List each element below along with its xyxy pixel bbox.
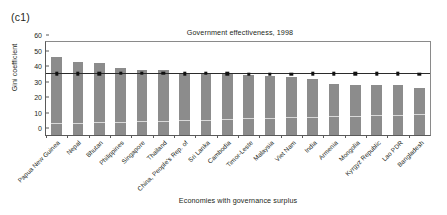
bar-base-hatch (329, 116, 340, 117)
x-tick-label: Armenia (324, 138, 345, 198)
bar (307, 79, 318, 135)
bar (243, 75, 254, 135)
bar (371, 85, 382, 135)
bar (137, 70, 148, 135)
x-tick-label: Bhutan (88, 138, 109, 198)
bar-slot (110, 42, 131, 135)
x-tick-label: Lao PDR (388, 138, 409, 198)
bar (350, 85, 361, 135)
y-axis-title: Gini coefficient (11, 28, 18, 108)
x-tick-label-text: Bhutan (84, 139, 103, 158)
y-tick-label: 50 (34, 47, 46, 54)
x-axis-tick-labels: Papua New GuineaNepalBhutanPhilippinesSi… (45, 138, 431, 198)
bar-slot (131, 42, 152, 135)
x-tick-label-text: India (303, 139, 318, 154)
bar-slot (302, 42, 323, 135)
bar-base-hatch (350, 116, 361, 117)
chart-figure: Government effectiveness, 1998 Gini coef… (0, 0, 447, 215)
bar-slot (217, 42, 238, 135)
y-tick-label: 60 (34, 32, 46, 39)
bar-slot (366, 42, 387, 135)
bar-base-hatch (414, 114, 425, 115)
bar (393, 85, 404, 135)
bar-slot (238, 42, 259, 135)
y-tick-label: 40 (34, 63, 46, 70)
bar (414, 88, 425, 135)
x-tick-label: Bangladesh (409, 138, 430, 198)
y-tick-label: 20 (34, 94, 46, 101)
bar-base-hatch (115, 122, 126, 123)
x-axis-title: Economies with governance surplus (45, 196, 431, 205)
bar-slot (387, 42, 408, 135)
x-tick-label: Timor-Leste (238, 138, 259, 198)
bar-series (46, 42, 430, 135)
bar-slot (345, 42, 366, 135)
bar-slot (46, 42, 67, 135)
bar (265, 76, 276, 135)
bar (158, 70, 169, 135)
bar (222, 74, 233, 135)
bar-base-hatch (286, 117, 297, 118)
bar-slot (259, 42, 280, 135)
x-tick-label: China, People's Rep. of (174, 138, 195, 198)
bar-slot (89, 42, 110, 135)
y-tick-label: 30 (34, 78, 46, 85)
x-tick-label: Nepal (66, 138, 87, 198)
bar-base-hatch (51, 123, 62, 124)
bar-base-hatch (393, 115, 404, 116)
bar-base-hatch (243, 118, 254, 119)
y-tick-label: 0 (38, 125, 46, 132)
reference-line (46, 73, 430, 74)
x-tick-label: India (302, 138, 323, 198)
bar (115, 68, 126, 135)
bar-base-hatch (179, 120, 190, 121)
y-tick-label: 10 (34, 109, 46, 116)
chart-title: Government effectiveness, 1998 (45, 28, 435, 37)
bar (51, 57, 62, 135)
y-tick-mark (46, 35, 49, 36)
bar-base-hatch (307, 117, 318, 118)
bar-slot (409, 42, 430, 135)
bar (201, 73, 212, 135)
x-tick-label-text: Papua New Guinea (16, 139, 61, 184)
plot-area: 0102030405060 (45, 41, 431, 136)
bar-slot (153, 42, 174, 135)
x-tick-label: Philippines (109, 138, 130, 198)
bar-base-hatch (371, 115, 382, 116)
x-tick-label: Kyrgyz Republic (367, 138, 388, 198)
bar-base-hatch (73, 123, 84, 124)
bar-base-hatch (201, 120, 212, 121)
bar (286, 77, 297, 135)
bar-base-hatch (265, 118, 276, 119)
bar-slot (281, 42, 302, 135)
bar-base-hatch (94, 122, 105, 123)
bar-slot (174, 42, 195, 135)
bar-slot (323, 42, 344, 135)
bar (329, 84, 340, 135)
bar-base-hatch (158, 121, 169, 122)
bar (94, 63, 105, 135)
bar (179, 73, 190, 135)
bar-base-hatch (137, 121, 148, 122)
x-tick-label: Sri Lanka (195, 138, 216, 198)
bar-slot (195, 42, 216, 135)
x-tick-label: Cambodia (217, 138, 238, 198)
x-tick-label: Malaysia (259, 138, 280, 198)
x-tick-label-text: Nepal (65, 139, 82, 156)
bar-slot (67, 42, 88, 135)
bar-base-hatch (222, 119, 233, 120)
x-tick-label: Papua New Guinea (45, 138, 66, 198)
x-tick-label: Viet Nam (281, 138, 302, 198)
